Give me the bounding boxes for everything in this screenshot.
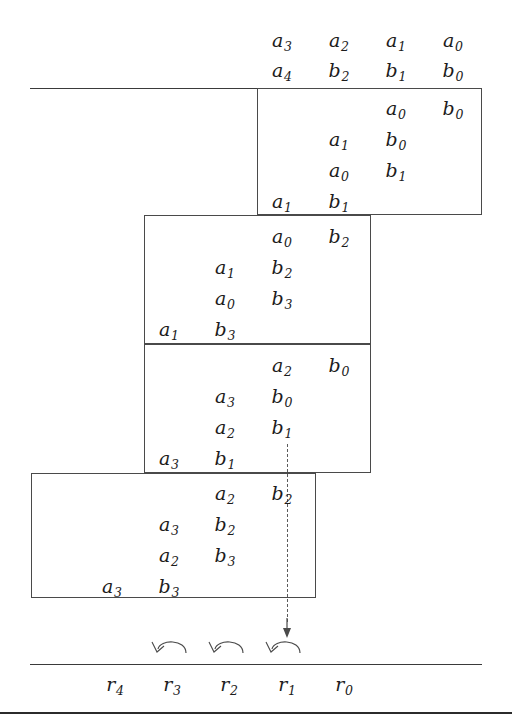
partial-term-right: b1 bbox=[215, 449, 236, 471]
partial-term-right: b0 bbox=[272, 387, 293, 409]
result-term: r0 bbox=[335, 675, 353, 697]
partial-term-left: a2 bbox=[272, 356, 292, 378]
operand-b-term: a4 bbox=[272, 61, 292, 83]
result-term: r1 bbox=[278, 675, 296, 697]
partial-term-left: a1 bbox=[272, 192, 292, 214]
operand-a-term: a1 bbox=[386, 31, 406, 53]
operand-a-term: a3 bbox=[272, 31, 292, 53]
operand-b-term: b2 bbox=[329, 61, 350, 83]
figure-canvas: a3 a2 a1 a0 a4 b2 b1 b0 a0 b0 a1 b0 a0 b… bbox=[0, 0, 512, 728]
carry-dashed-line bbox=[287, 444, 288, 622]
page-bottom-rule bbox=[0, 712, 512, 714]
operand-b-term: b0 bbox=[443, 61, 464, 83]
carry-arc-r3 bbox=[152, 642, 186, 653]
operand-a-term: a2 bbox=[329, 31, 349, 53]
partial-term-left: a1 bbox=[215, 258, 235, 280]
operand-b-term: b1 bbox=[386, 61, 407, 83]
partial-term-left: a3 bbox=[159, 515, 179, 537]
carry-arc-r1 bbox=[266, 642, 300, 653]
partial-term-left: a3 bbox=[102, 577, 122, 599]
partial-term-right: b2 bbox=[272, 258, 293, 280]
partial-term-right: b1 bbox=[329, 192, 350, 214]
result-term: r4 bbox=[106, 675, 124, 697]
result-separator-rule bbox=[30, 664, 482, 665]
partial-term-right: b0 bbox=[443, 99, 464, 121]
partial-term-left: a0 bbox=[329, 161, 349, 183]
partial-term-right: b2 bbox=[215, 515, 236, 537]
partial-term-left: a3 bbox=[159, 449, 179, 471]
partial-term-right: b1 bbox=[272, 418, 293, 440]
partial-term-left: a2 bbox=[215, 484, 235, 506]
carry-arc-r2 bbox=[209, 642, 243, 653]
partial-term-right: b3 bbox=[215, 320, 236, 342]
partial-term-right: b2 bbox=[329, 227, 350, 249]
partial-term-left: a0 bbox=[215, 289, 235, 311]
result-term: r3 bbox=[163, 675, 181, 697]
partial-term-left: a0 bbox=[386, 99, 406, 121]
operand-a-term: a0 bbox=[443, 31, 463, 53]
partial-term-right: b1 bbox=[386, 161, 407, 183]
result-term: r2 bbox=[220, 675, 238, 697]
partial-term-left: a3 bbox=[215, 387, 235, 409]
partial-term-right: b3 bbox=[159, 577, 180, 599]
partial-term-left: a0 bbox=[272, 227, 292, 249]
partial-term-left: a2 bbox=[215, 418, 235, 440]
partial-term-right: b2 bbox=[272, 484, 293, 506]
partial-term-right: b0 bbox=[386, 130, 407, 152]
partial-term-right: b3 bbox=[215, 546, 236, 568]
partial-term-right: b0 bbox=[329, 356, 350, 378]
partial-term-left: a1 bbox=[159, 320, 179, 342]
partial-term-left: a2 bbox=[159, 546, 179, 568]
partial-term-left: a1 bbox=[329, 130, 349, 152]
partial-term-right: b3 bbox=[272, 289, 293, 311]
